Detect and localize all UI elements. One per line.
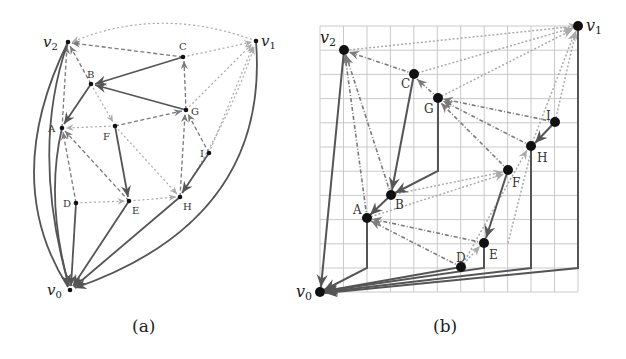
panel-b: v2 v1 v0 C G I H F B A E D (b) [296,16,602,336]
label-a-v2: v2 [43,33,58,52]
figure-canvas: v2 v1 v0 B C A F G I D E H (a) [0,0,626,359]
node-a-I [207,151,212,156]
labels-a: v2 v1 v0 B C A F G I D E H [43,32,276,300]
node-b-E [479,238,489,248]
node-a-B [89,82,94,87]
node-b-G [433,93,443,103]
node-b-H [526,141,536,151]
label-b-F: F [512,176,520,190]
dotted-edges-b [348,26,578,267]
node-b-C [409,69,419,79]
label-a-F: F [103,131,110,142]
label-a-I: I [200,148,204,159]
node-a-C [181,55,186,60]
caption-a: (a) [132,316,155,336]
label-b-G: G [424,102,434,116]
label-b-D: D [456,251,466,265]
label-a-C: C [179,41,187,52]
label-b-C: C [401,77,410,91]
label-b-H: H [537,151,547,165]
node-b-v0 [315,287,325,297]
label-b-v0: v0 [296,282,312,303]
label-b-E: E [489,248,498,262]
node-a-E [127,199,132,204]
node-b-A [362,213,372,223]
node-b-v2 [339,45,349,55]
node-a-H [178,195,183,200]
label-a-B: B [87,69,94,80]
node-b-I [550,117,560,127]
solid-edges-a [34,41,257,288]
label-b-v2: v2 [320,28,336,49]
label-a-A: A [47,123,56,134]
dashed-edges-a [62,43,209,203]
label-a-v0: v0 [47,281,62,300]
node-a-G [184,108,189,113]
caption-b: (b) [433,316,457,336]
label-b-B: B [395,198,404,212]
label-b-v1: v1 [586,16,602,37]
label-b-A: A [352,203,362,217]
node-a-A [60,126,65,131]
node-a-F [113,124,118,129]
label-a-G: G [191,106,199,117]
label-b-I: I [546,109,551,123]
node-b-F [503,165,513,175]
node-a-v2 [66,40,71,45]
label-a-H: H [183,201,192,212]
node-a-D [74,201,79,206]
node-b-v1 [573,21,583,31]
node-a-v0 [68,288,73,293]
panel-a: v2 v1 v0 B C A F G I D E H (a) [34,23,276,336]
label-a-E: E [132,205,139,216]
labels-b: v2 v1 v0 C G I H F B A E D [296,16,602,303]
label-a-v1: v1 [261,32,276,51]
dashed-edges-b [345,52,555,267]
node-a-v1 [254,39,259,44]
label-a-D: D [63,198,71,209]
